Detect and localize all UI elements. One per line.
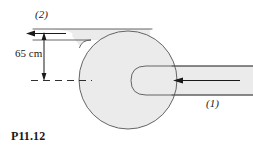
dimension-arrow-head-bottom — [42, 73, 47, 81]
outlet-flow-arrow-head — [26, 31, 35, 37]
figure-caption: P11.12 — [11, 129, 45, 144]
dimension-label: 65 cm — [15, 47, 42, 59]
figure-container: (2) 65 cm (1) P11.12 — [0, 0, 253, 151]
inlet-port-label: (1) — [206, 97, 219, 109]
outlet-port-label: (2) — [35, 8, 48, 20]
flow-body-group — [33, 29, 253, 129]
